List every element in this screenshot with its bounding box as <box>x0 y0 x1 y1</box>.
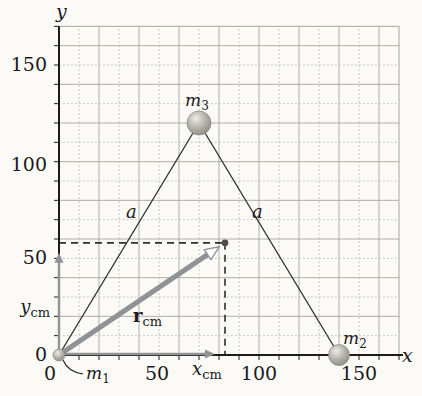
side-length-label: a <box>126 201 137 222</box>
side-length-label-part: a <box>126 201 137 222</box>
y-axis-title: y <box>55 0 67 22</box>
side-length-label: a <box>252 201 263 222</box>
center-of-mass-dot <box>222 239 229 246</box>
y-tick-label: 100 <box>11 153 47 175</box>
y-axis-title-part: y <box>55 0 67 22</box>
m2-label-part: 2 <box>359 337 367 351</box>
figure-page: aam1m2m3xy050100150050100150rcmxcmycm <box>0 0 422 396</box>
rcm-vector-label-part: cm <box>142 314 162 329</box>
x-tick-label: 50 <box>145 362 169 384</box>
x-tick-label: 150 <box>341 362 377 384</box>
m3-ball <box>187 111 211 135</box>
m2-label-part: m <box>343 328 359 348</box>
x-tick-label: 100 <box>241 362 277 384</box>
ycm-label-part: cm <box>30 305 50 320</box>
x-axis-title: x <box>402 344 413 366</box>
center-of-mass-figure: aam1m2m3xy050100150050100150rcmxcmycm <box>0 0 422 396</box>
x-tick-label: 0 <box>44 362 56 384</box>
y-tick-label: 150 <box>11 53 47 75</box>
m1-ball <box>53 349 65 361</box>
xcm-label-part: cm <box>202 367 222 382</box>
xcm-label-part: x <box>192 358 202 379</box>
y-tick-label: 50 <box>23 246 47 268</box>
m1-label-part: 1 <box>102 372 110 386</box>
m3-label-part: 3 <box>201 99 209 113</box>
m3-label-part: m <box>185 90 201 110</box>
y-tick-label: 0 <box>35 343 47 365</box>
m1-label-part: m <box>86 363 102 383</box>
side-length-label-part: a <box>252 201 263 222</box>
x-axis-title-part: x <box>402 344 413 366</box>
